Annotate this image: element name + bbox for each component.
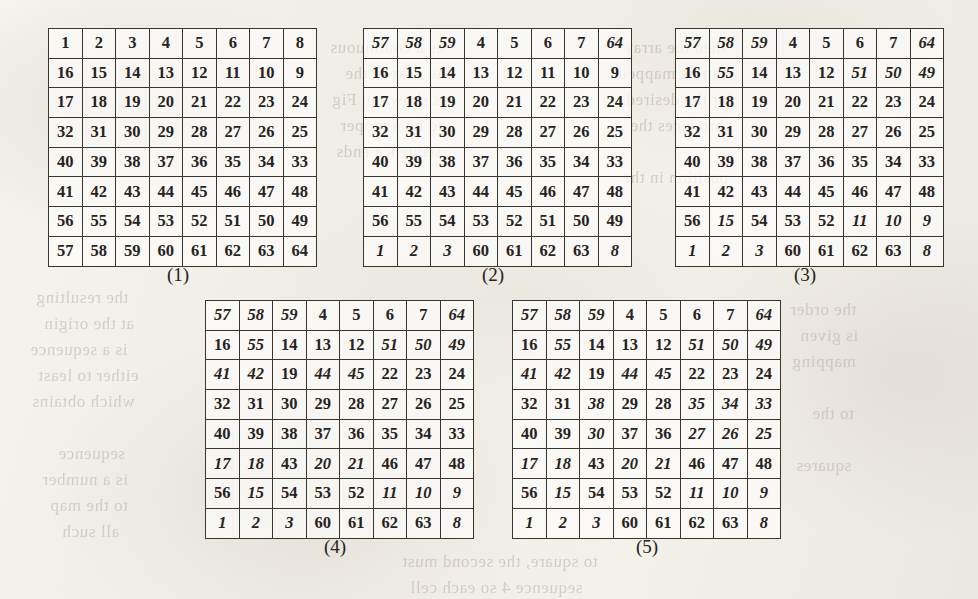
grid-cell: 37 bbox=[149, 147, 183, 177]
grid-cell: 57 bbox=[206, 301, 240, 331]
grid-cell: 44 bbox=[776, 177, 810, 207]
grid-cell: 60 bbox=[464, 236, 498, 266]
grid-cell: 25 bbox=[747, 419, 781, 449]
grid-cell: 11 bbox=[680, 479, 714, 509]
grid-cell: 40 bbox=[513, 419, 547, 449]
grid-cell: 28 bbox=[183, 118, 217, 148]
grid-cell: 31 bbox=[397, 118, 431, 148]
grid-cell: 26 bbox=[877, 118, 911, 148]
grid-cell: 63 bbox=[877, 236, 911, 266]
number-grid: 5758594567641615141312111091718192021222… bbox=[363, 28, 632, 267]
grid-row: 1718432021464748 bbox=[513, 449, 781, 479]
grid-cell: 35 bbox=[680, 390, 714, 420]
grid-cell: 61 bbox=[810, 236, 844, 266]
grid-cell: 35 bbox=[531, 147, 565, 177]
grid-row: 575859456764 bbox=[513, 301, 781, 331]
grid-cell: 14 bbox=[431, 58, 465, 88]
grid-cell: 13 bbox=[306, 330, 340, 360]
grid-cell: 3 bbox=[431, 236, 465, 266]
grid-row: 1718432021464748 bbox=[206, 449, 474, 479]
grid-cell: 33 bbox=[598, 147, 632, 177]
grid-cell: 50 bbox=[714, 330, 748, 360]
grid-cell: 53 bbox=[464, 207, 498, 237]
grid-cell: 9 bbox=[747, 479, 781, 509]
grid-cell: 5 bbox=[340, 301, 374, 331]
grid-cell: 23 bbox=[407, 360, 441, 390]
grid-cell: 8 bbox=[910, 236, 944, 266]
grid-cell: 53 bbox=[149, 207, 183, 237]
number-grid: 5758594567641655141312515049414219444522… bbox=[512, 300, 781, 539]
grid-cell: 46 bbox=[216, 177, 250, 207]
grid-cell: 43 bbox=[431, 177, 465, 207]
grid-cell: 31 bbox=[709, 118, 743, 148]
grid-cell: 44 bbox=[464, 177, 498, 207]
grid-cell: 13 bbox=[464, 58, 498, 88]
grid-cell: 8 bbox=[598, 236, 632, 266]
grid-cell: 52 bbox=[183, 207, 217, 237]
grid-cell: 12 bbox=[340, 330, 374, 360]
grid-cell: 14 bbox=[116, 58, 150, 88]
grid-cell: 19 bbox=[580, 360, 614, 390]
grid-cell: 41 bbox=[206, 360, 240, 390]
grid-cell: 20 bbox=[149, 88, 183, 118]
grid-cell: 45 bbox=[810, 177, 844, 207]
grid-cell: 38 bbox=[116, 147, 150, 177]
grid-cell: 12 bbox=[498, 58, 532, 88]
grid-cell: 9 bbox=[283, 58, 317, 88]
grid-row: 561554535211109 bbox=[676, 207, 944, 237]
grid-cell: 59 bbox=[743, 29, 777, 59]
grid-cell: 59 bbox=[116, 236, 150, 266]
grid-cell: 21 bbox=[183, 88, 217, 118]
grid-cell: 15 bbox=[82, 58, 116, 88]
grid-row: 4039383736353433 bbox=[676, 147, 944, 177]
grid-cell: 42 bbox=[546, 360, 580, 390]
grid-cell: 3 bbox=[273, 508, 307, 538]
grid-cell: 13 bbox=[149, 58, 183, 88]
grid-cell: 27 bbox=[531, 118, 565, 148]
grid-cell: 30 bbox=[431, 118, 465, 148]
grid-row: 1718192021222324 bbox=[364, 88, 632, 118]
figure-caption: (2) bbox=[463, 264, 523, 286]
grid-cell: 36 bbox=[183, 147, 217, 177]
grid-cell: 54 bbox=[273, 479, 307, 509]
grid-cell: 16 bbox=[364, 58, 398, 88]
grid-cell: 20 bbox=[776, 88, 810, 118]
grid-cell: 16 bbox=[676, 58, 710, 88]
grid-cell: 52 bbox=[498, 207, 532, 237]
grid-cell: 64 bbox=[910, 29, 944, 59]
grid-cell: 53 bbox=[306, 479, 340, 509]
grid-row: 575859456764 bbox=[364, 29, 632, 59]
grid-cell: 4 bbox=[464, 29, 498, 59]
grid-cell: 48 bbox=[747, 449, 781, 479]
grid-cell: 11 bbox=[843, 207, 877, 237]
grid-cell: 55 bbox=[397, 207, 431, 237]
grid-cell: 47 bbox=[565, 177, 599, 207]
grid-cell: 12 bbox=[183, 58, 217, 88]
grid-cell: 47 bbox=[407, 449, 441, 479]
grid-cell: 41 bbox=[676, 177, 710, 207]
grid-cell: 17 bbox=[364, 88, 398, 118]
grid-cell: 43 bbox=[743, 177, 777, 207]
grid-cell: 5 bbox=[647, 301, 681, 331]
grid-cell: 63 bbox=[250, 236, 284, 266]
grid-cell: 11 bbox=[216, 58, 250, 88]
grid-cell: 54 bbox=[580, 479, 614, 509]
grid-cell: 10 bbox=[565, 58, 599, 88]
grid-cell: 4 bbox=[306, 301, 340, 331]
grid-cell: 27 bbox=[680, 419, 714, 449]
grid-cell: 2 bbox=[397, 236, 431, 266]
grid-cell: 24 bbox=[440, 360, 474, 390]
grid-cell: 63 bbox=[565, 236, 599, 266]
grid-cell: 27 bbox=[216, 118, 250, 148]
grid-cell: 56 bbox=[49, 207, 83, 237]
grid-cell: 7 bbox=[407, 301, 441, 331]
grid-cell: 33 bbox=[283, 147, 317, 177]
grid-cell: 41 bbox=[49, 177, 83, 207]
grid-cell: 26 bbox=[714, 419, 748, 449]
grid-cell: 10 bbox=[250, 58, 284, 88]
grid-cell: 46 bbox=[531, 177, 565, 207]
grid-cell: 27 bbox=[373, 390, 407, 420]
grid-cell: 28 bbox=[810, 118, 844, 148]
grid-cell: 52 bbox=[340, 479, 374, 509]
grid-cell: 5 bbox=[498, 29, 532, 59]
